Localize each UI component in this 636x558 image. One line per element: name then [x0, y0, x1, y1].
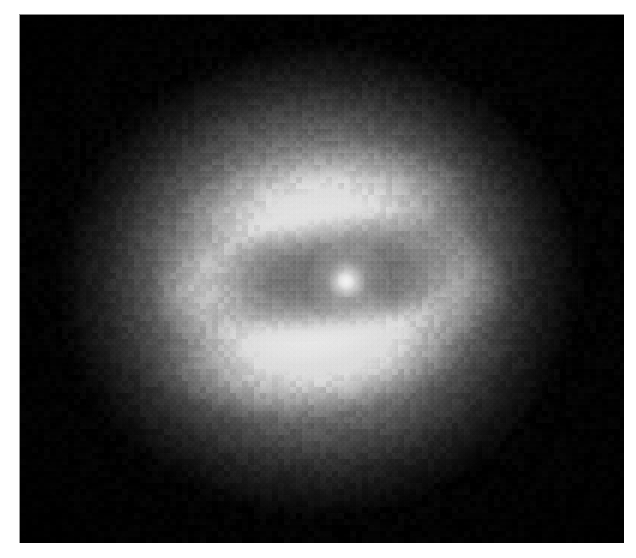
ccd-pixel-blocks-texture	[20, 15, 624, 543]
astronomy-image-frame	[19, 14, 624, 543]
figure-page	[0, 0, 636, 558]
sky-canvas	[20, 15, 624, 543]
